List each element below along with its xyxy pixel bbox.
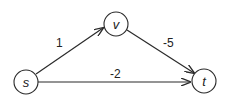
edge-weight-v-t: -5: [163, 36, 174, 50]
edge-v-to-t: -5: [127, 30, 194, 73]
edge-s-to-v: 1: [36, 28, 103, 74]
node-v: v: [104, 12, 128, 36]
arrow-s-v-icon: [36, 28, 103, 74]
edge-weight-s-v: 1: [56, 36, 63, 50]
edge-weight-s-t: -2: [110, 67, 121, 81]
node-s: s: [14, 70, 38, 94]
node-s-label: s: [23, 75, 30, 90]
node-t: t: [192, 69, 216, 93]
graph-diagram: 1 -5 -2 s v t: [0, 0, 227, 106]
arrow-v-t-icon: [127, 30, 194, 73]
edge-s-to-t: -2: [38, 67, 190, 82]
